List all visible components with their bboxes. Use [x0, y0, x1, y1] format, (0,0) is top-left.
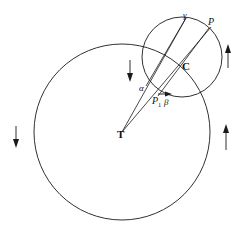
label-t: T	[117, 129, 124, 140]
label-p1-subscript: 1	[158, 101, 161, 108]
chord-gamma-to-lower-left	[146, 18, 186, 86]
label-gamma: γ	[183, 11, 187, 20]
arrow-upper-right-up	[225, 44, 231, 68]
label-alpha: α	[139, 84, 144, 93]
label-c: C	[182, 61, 190, 72]
arrow-outer-right-up	[223, 124, 229, 150]
label-p1: P1	[152, 96, 161, 109]
geometry-figure: γ P C α P1 β T	[0, 0, 250, 238]
figure-canvas	[0, 0, 250, 238]
arrow-inner-down	[127, 60, 133, 82]
label-beta: β	[164, 98, 168, 107]
arrow-outer-left-down	[13, 126, 19, 148]
label-p: P	[208, 17, 214, 27]
small-circle	[142, 17, 222, 97]
